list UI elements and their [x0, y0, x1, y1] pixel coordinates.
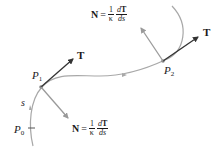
normal-equation-p2: N = 1κ dTds: [91, 6, 127, 23]
arc-length-label: s: [21, 98, 25, 108]
point-label-p0: P0: [14, 124, 24, 137]
normal-equation-p1: N = 1κ dTds: [72, 120, 108, 137]
point-label-p2: P2: [164, 65, 174, 78]
tangent-arrow-p2: [163, 37, 198, 61]
normal-arrow-p2: [141, 28, 163, 61]
normal-arrow-p1: [41, 87, 68, 118]
tangent-label-p1: T: [77, 50, 84, 61]
tangent-label-p2: T: [203, 27, 210, 38]
point-label-p1: P1: [32, 70, 42, 83]
tangent-arrow-p1: [41, 59, 73, 87]
